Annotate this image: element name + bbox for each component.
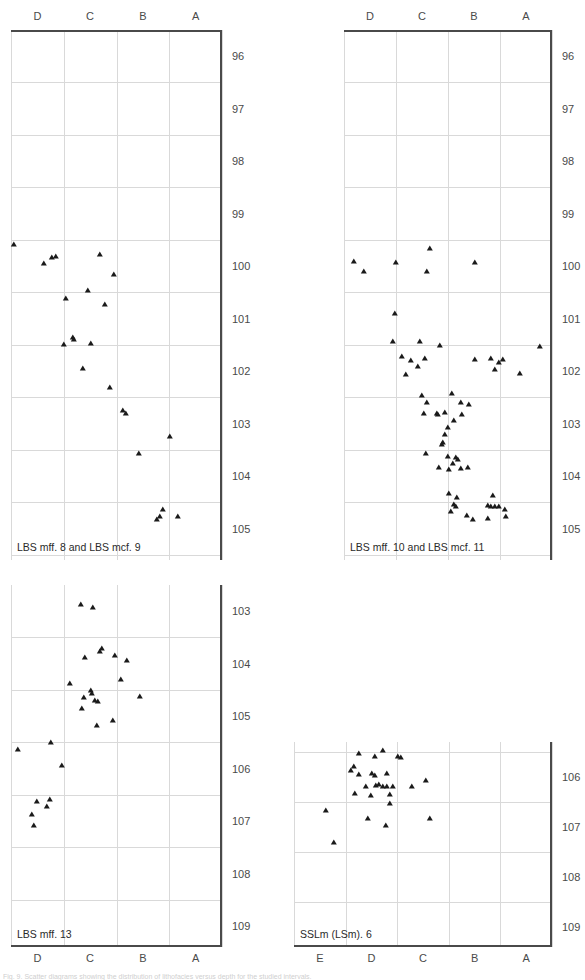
data-point-marker: [439, 442, 445, 447]
data-point-marker: [423, 778, 429, 783]
gridline-vertical: [344, 30, 345, 560]
data-point-marker: [363, 784, 369, 789]
data-point-marker: [371, 754, 377, 759]
data-point-marker: [435, 464, 441, 469]
data-point-marker: [470, 517, 476, 522]
data-point-marker: [351, 259, 357, 264]
axis-line-right: [220, 30, 222, 560]
gridline-horizontal: [11, 637, 222, 638]
y-axis-tick-label: 106: [232, 763, 250, 775]
data-point-marker: [160, 507, 166, 512]
gridline-horizontal: [344, 292, 552, 293]
gridline-horizontal: [294, 852, 552, 853]
data-point-marker: [424, 269, 430, 274]
gridline-vertical: [500, 30, 501, 560]
y-axis-tick-label: 105: [232, 523, 250, 535]
data-point-marker: [451, 417, 457, 422]
axis-line-top: [344, 30, 552, 32]
data-point-marker: [331, 840, 337, 845]
gridline-vertical: [11, 30, 12, 560]
gridline-horizontal: [11, 397, 222, 398]
data-point-marker: [454, 494, 460, 499]
axis-line-right: [550, 30, 552, 560]
gridline-vertical: [222, 585, 223, 947]
y-axis-tick-label: 103: [232, 605, 250, 617]
chart-panel-2: 96979899100101102103104105DCBALBS mff. 1…: [344, 30, 552, 560]
gridline-vertical: [448, 30, 449, 560]
y-axis-tick-label: 98: [562, 155, 574, 167]
data-point-marker: [502, 506, 508, 511]
plot-area: [294, 742, 552, 947]
data-point-marker: [421, 411, 427, 416]
data-point-marker: [81, 695, 87, 700]
data-point-marker: [31, 823, 37, 828]
data-point-marker: [392, 311, 398, 316]
data-point-marker: [465, 464, 471, 469]
data-point-marker: [384, 784, 390, 789]
data-point-marker: [117, 677, 123, 682]
gridline-horizontal: [11, 240, 222, 241]
gridline-horizontal: [11, 502, 222, 503]
data-point-marker: [124, 657, 130, 662]
gridline-horizontal: [11, 795, 222, 796]
data-point-marker: [384, 771, 390, 776]
gridline-horizontal: [11, 900, 222, 901]
axis-line-bottom: [294, 945, 552, 947]
axis-line-bottom: [11, 945, 222, 947]
data-point-marker: [446, 491, 452, 496]
gridline-horizontal: [344, 345, 552, 346]
data-point-marker: [79, 366, 85, 371]
y-axis-tick-label: 108: [562, 871, 580, 883]
plot-area: [11, 30, 222, 560]
data-point-marker: [424, 400, 430, 405]
y-axis-tick-label: 103: [232, 418, 250, 430]
data-point-marker: [323, 808, 329, 813]
data-point-marker: [387, 801, 393, 806]
data-point-marker: [48, 740, 54, 745]
data-point-marker: [380, 748, 386, 753]
chart-panel-1: 96979899100101102103104105DCBALBS mff. 8…: [11, 30, 222, 560]
data-point-marker: [449, 391, 455, 396]
gridline-horizontal: [11, 292, 222, 293]
data-point-marker: [71, 336, 77, 341]
data-point-marker: [417, 338, 423, 343]
y-axis-tick-label: 105: [562, 523, 580, 535]
data-point-marker: [415, 364, 421, 369]
data-point-marker: [96, 252, 102, 257]
y-axis-tick-label: 109: [232, 920, 250, 932]
data-point-marker: [472, 357, 478, 362]
data-point-marker: [457, 465, 463, 470]
data-point-marker: [44, 803, 50, 808]
data-point-marker: [88, 340, 94, 345]
data-point-marker: [368, 793, 374, 798]
data-point-marker: [67, 680, 73, 685]
data-point-marker: [445, 454, 451, 459]
data-point-marker: [110, 717, 116, 722]
data-point-marker: [77, 602, 83, 607]
data-point-marker: [153, 517, 159, 522]
data-point-marker: [63, 295, 69, 300]
x-axis-tick-label: E: [316, 952, 323, 964]
data-point-marker: [107, 385, 113, 390]
data-point-marker: [365, 816, 371, 821]
data-point-marker: [503, 514, 509, 519]
y-axis-tick-label: 102: [562, 365, 580, 377]
figure-scatter-panels: 96979899100101102103104105DCBALBS mff. 8…: [0, 0, 585, 980]
data-point-marker: [96, 649, 102, 654]
gridline-horizontal: [11, 690, 222, 691]
x-axis-tick-label: C: [419, 952, 427, 964]
data-point-marker: [34, 798, 40, 803]
axis-line-right: [550, 742, 552, 947]
data-point-marker: [489, 493, 495, 498]
data-point-marker: [383, 823, 389, 828]
gridline-vertical: [117, 30, 118, 560]
gridline-horizontal: [11, 450, 222, 451]
data-point-marker: [47, 796, 53, 801]
data-point-marker: [399, 353, 405, 358]
data-point-marker: [90, 605, 96, 610]
x-axis-tick-label: D: [367, 952, 375, 964]
gridline-vertical: [222, 30, 223, 560]
y-axis-tick-label: 96: [232, 50, 244, 62]
data-point-marker: [517, 371, 523, 376]
gridline-horizontal: [11, 345, 222, 346]
